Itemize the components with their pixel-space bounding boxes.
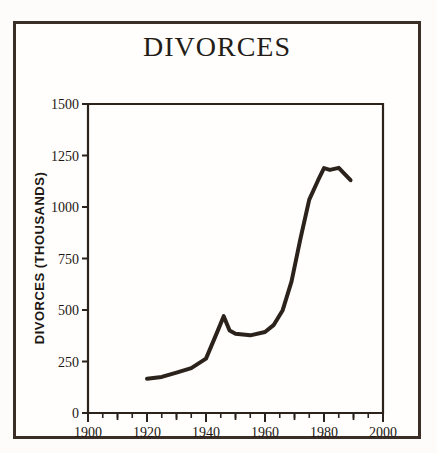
plot-border — [88, 104, 383, 413]
x-tick-label: 1960 — [251, 425, 279, 440]
x-tick-label: 1940 — [192, 425, 220, 440]
y-tick-label: 1500 — [51, 97, 79, 112]
x-tick-label: 1980 — [310, 425, 338, 440]
x-tick-label: 1900 — [74, 425, 102, 440]
y-axis-tick-labels: 0250500750100012501500 — [51, 97, 79, 421]
y-axis-title: DIVORCES (THOUSANDS) — [32, 172, 47, 345]
x-tick-label: 2000 — [369, 425, 397, 440]
y-tick-label: 0 — [72, 406, 79, 421]
y-tick-label: 250 — [58, 355, 79, 370]
data-series-line — [147, 168, 351, 379]
y-tick-label: 1250 — [51, 149, 79, 164]
y-tick-label: 750 — [58, 252, 79, 267]
x-axis-tick-labels: 190019201940196019802000 — [74, 425, 397, 440]
x-axis-ticks — [88, 413, 383, 422]
chart-figure: DIVORCES 0250500750100012501500 19001920… — [0, 0, 437, 453]
y-tick-label: 500 — [58, 303, 79, 318]
plot-frame — [88, 104, 383, 413]
y-tick-label: 1000 — [51, 200, 79, 215]
plot-area: 0250500750100012501500 19001920194019601… — [0, 0, 437, 453]
x-tick-label: 1920 — [133, 425, 161, 440]
